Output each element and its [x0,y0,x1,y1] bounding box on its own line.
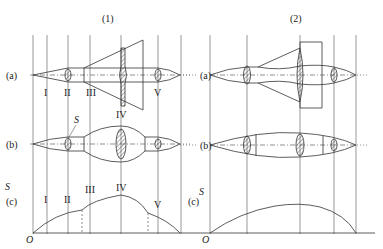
row-label-a: (a) [6,70,17,82]
aircraft-planform-a: (a) I II III IV V [6,40,192,120]
c-station-V: V [154,199,162,210]
row-label-b: (b) [6,139,18,151]
area-rule-diagram: (1) (a) I II III IV V [0,0,383,249]
station-III: III [86,87,96,98]
area-label-s: S [74,114,79,125]
panel-1-label: (1) [102,13,114,25]
y-axis-label-s-2: S [199,186,204,197]
c-station-II: II [64,194,71,205]
panel-2: (2) (a) (b) [180,13,375,245]
station-II: II [64,87,71,98]
row-label-c: (c) [6,196,17,208]
origin-label: O [26,234,33,245]
row-label-b-2: (b) [200,140,212,152]
panel-2-label: (2) [290,13,302,25]
y-axis-label-s: S [5,181,10,192]
station-IV: IV [116,109,127,120]
aircraft-planform-a-2: (a) [180,42,368,108]
station-lines-2 [210,35,356,234]
area-distribution-c-2: S (c) O [188,186,375,245]
station-I: I [44,87,47,98]
c-station-I: I [44,194,47,205]
diagram-canvas: (1) (a) I II III IV V [0,0,383,249]
station-V: V [154,87,162,98]
c-station-III: III [85,184,95,195]
equivalent-body-b: (b) S [6,114,192,162]
panel-1: (1) (a) I II III IV V [5,13,200,245]
row-label-a-2: (a) [200,70,211,82]
origin-label-2: O [202,234,209,245]
area-distribution-c: S (c) O I II III IV V [5,181,200,245]
c-station-IV: IV [116,182,127,193]
equivalent-body-b-2: (b) [180,133,368,158]
row-label-c-2: (c) [188,196,199,208]
